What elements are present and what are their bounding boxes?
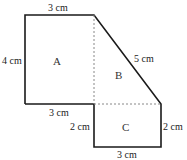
dimension-left: 4 cm [2, 56, 22, 66]
composite-shape-figure [0, 0, 187, 160]
region-a-label: A [53, 56, 61, 67]
dimension-c-right: 2 cm [163, 122, 183, 132]
dimension-c-bottom: 3 cm [117, 150, 137, 160]
shape-outline [25, 15, 161, 147]
dimension-a-bottom: 3 cm [49, 108, 69, 118]
dimension-diagonal: 5 cm [134, 54, 154, 64]
region-b-label: B [115, 70, 122, 81]
dimension-c-left: 2 cm [70, 122, 90, 132]
dimension-top: 3 cm [48, 3, 68, 13]
region-c-label: C [122, 122, 129, 133]
